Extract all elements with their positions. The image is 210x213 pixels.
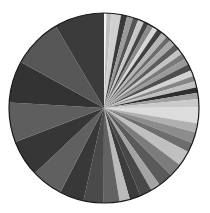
pie-slices xyxy=(9,13,199,203)
pie-chart xyxy=(0,0,210,213)
